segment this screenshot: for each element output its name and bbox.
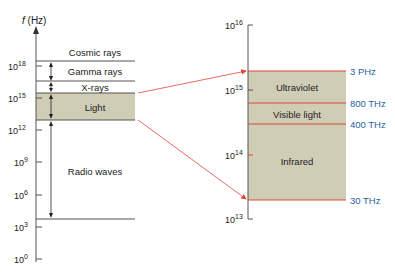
axis-label: f (Hz)	[22, 15, 46, 26]
svg-text:1015: 1015	[225, 84, 243, 96]
band-x-rays: X-rays	[81, 82, 109, 93]
band-visible-light: Visible light	[273, 109, 321, 120]
svg-text:1018: 1018	[8, 60, 26, 72]
label-3phz: 3 PHz	[350, 66, 376, 77]
svg-text:100: 100	[14, 253, 28, 265]
svg-text:109: 109	[14, 156, 28, 168]
svg-text:1016: 1016	[225, 19, 243, 31]
band-radio-waves: Radio waves	[68, 166, 123, 177]
right-tick-labels: 1016 1015 1014 1013	[225, 19, 243, 225]
right-scale	[248, 25, 346, 219]
label-30thz: 30 THz	[350, 195, 381, 206]
range-arrows	[49, 62, 53, 218]
svg-text:103: 103	[14, 221, 28, 233]
svg-text:106: 106	[14, 189, 28, 201]
svg-text:1014: 1014	[225, 149, 243, 161]
svg-text:1015: 1015	[8, 92, 26, 104]
band-infrared: Infrared	[281, 156, 314, 167]
label-800thz: 800 THz	[350, 98, 386, 109]
label-400thz: 400 THz	[350, 119, 386, 130]
left-tick-labels: 1018 1015 1012 109 106 103 100	[8, 60, 28, 265]
band-ultraviolet: Ultraviolet	[276, 82, 319, 93]
left-scale	[33, 26, 135, 262]
svg-text:1013: 1013	[225, 213, 243, 225]
em-spectrum-diagram: f (Hz) 1018 1015 1012 109 106 103 100 Co…	[0, 0, 395, 272]
axis-arrow-icon	[33, 26, 39, 34]
band-light: Light	[85, 102, 106, 113]
band-cosmic-rays: Cosmic rays	[69, 47, 122, 58]
band-gamma-rays: Gamma rays	[68, 66, 123, 77]
svg-text:1012: 1012	[8, 124, 26, 136]
